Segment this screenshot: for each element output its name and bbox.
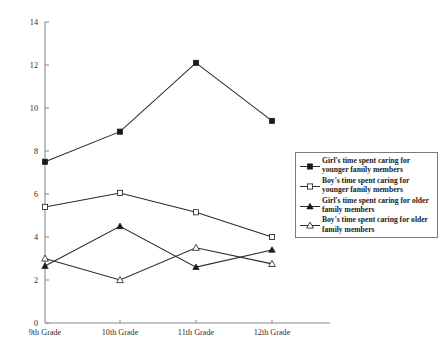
y-tick-label: 2: [34, 276, 38, 285]
legend-item: Boy's time spent caring for older family…: [299, 215, 433, 234]
series-2: [42, 190, 274, 239]
y-tick-label: 8: [34, 147, 38, 156]
y-tick-label: 6: [34, 190, 38, 199]
y-tick-label: 10: [30, 104, 38, 113]
data-point-open-square: [307, 184, 312, 189]
line-chart: 024681012149th Grade10th Grade11th Grade…: [0, 0, 448, 364]
legend-marker-filled-square-icon: [299, 158, 321, 169]
chart-legend: Girl's time spent caring for younger fam…: [295, 152, 438, 238]
x-tick-label: 12th Grade: [254, 328, 291, 337]
y-tick-label: 4: [34, 233, 38, 242]
data-point-filled-square: [117, 129, 122, 134]
legend-item: Girl's time spent caring for younger fam…: [299, 156, 433, 175]
series-4: [42, 244, 276, 282]
legend-item-label: Boy's time spent caring for older family…: [321, 215, 433, 234]
legend-item: Girl's time spent caring for older famil…: [299, 196, 433, 215]
data-point-filled-square: [193, 60, 198, 65]
data-point-filled-square: [307, 164, 312, 169]
axes: 024681012149th Grade10th Grade11th Grade…: [29, 18, 330, 337]
data-point-open-triangle: [193, 244, 200, 250]
data-series: [42, 60, 276, 282]
legend-item-label: Girl's time spent caring for younger fam…: [321, 156, 433, 175]
data-point-filled-triangle: [42, 263, 48, 269]
y-tick-label: 0: [34, 319, 38, 328]
series-line: [45, 248, 272, 280]
series-1: [42, 60, 274, 164]
legend-marker-filled-triangle-icon: [299, 198, 321, 209]
data-point-open-square: [117, 190, 122, 195]
series-line: [45, 63, 272, 162]
x-tick-label: 10th Grade: [102, 328, 139, 337]
series-line: [45, 226, 272, 267]
data-point-filled-triangle: [117, 223, 123, 229]
x-tick-label: 11th Grade: [178, 328, 215, 337]
legend-item: Boy's time spent caring for younger fami…: [299, 176, 433, 195]
data-point-filled-square: [42, 159, 47, 164]
series-3: [42, 223, 275, 269]
data-point-open-square: [42, 204, 47, 209]
data-point-open-square: [269, 234, 274, 239]
data-point-filled-square: [269, 118, 274, 123]
legend-marker-open-triangle-icon: [299, 217, 321, 228]
data-point-open-square: [193, 210, 198, 215]
legend-marker-open-square-icon: [299, 178, 321, 189]
y-tick-label: 14: [30, 18, 38, 27]
data-point-open-triangle: [42, 255, 49, 261]
x-tick-label: 9th Grade: [29, 328, 62, 337]
y-tick-label: 12: [30, 61, 38, 70]
legend-item-label: Boy's time spent caring for younger fami…: [321, 176, 433, 195]
legend-item-label: Girl's time spent caring for older famil…: [321, 196, 433, 215]
data-point-filled-triangle: [269, 247, 275, 253]
series-line: [45, 193, 272, 237]
